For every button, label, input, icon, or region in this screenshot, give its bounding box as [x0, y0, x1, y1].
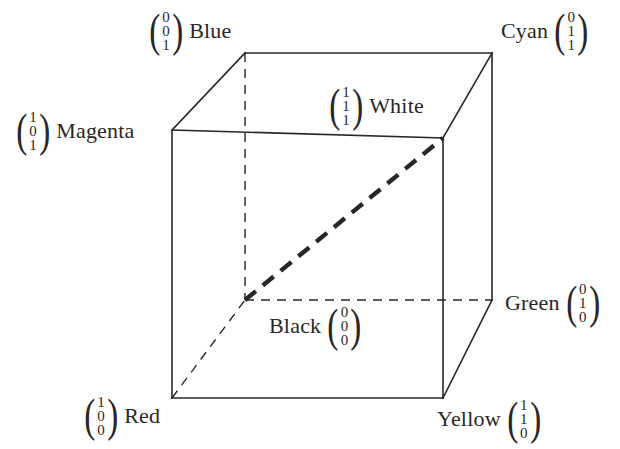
- colour-name-green: Green: [501, 292, 564, 314]
- vertex-label-blue: (001)Blue: [147, 8, 236, 54]
- vector-component: 0: [97, 409, 105, 423]
- colour-vector-white: (111): [327, 83, 365, 129]
- vector-right-paren-icon: ): [530, 400, 541, 438]
- vector-component: 1: [342, 85, 350, 99]
- colour-vector-black: (000): [325, 303, 363, 349]
- colour-vector-blue: (001): [147, 8, 185, 54]
- vertex-label-cyan: (011)Cyan: [497, 8, 590, 54]
- vector-component: 0: [162, 10, 170, 24]
- vector-left-paren-icon: (: [566, 284, 577, 322]
- vector-right-paren-icon: ): [172, 12, 183, 50]
- colour-name-magenta: Magenta: [52, 120, 138, 142]
- vector-component: 1: [520, 398, 528, 412]
- vector-component: 1: [162, 38, 170, 52]
- vector-right-paren-icon: ): [577, 12, 588, 50]
- colour-name-blue: Blue: [185, 20, 235, 42]
- vertex-label-yellow: (110)Yellow: [433, 396, 543, 442]
- vector-component: 0: [520, 426, 528, 440]
- vector-left-paren-icon: (: [16, 112, 27, 150]
- vector-component: 0: [568, 10, 576, 24]
- vector-components-white: 111: [341, 85, 351, 127]
- vector-component: 0: [579, 282, 587, 296]
- vector-component: 1: [97, 395, 105, 409]
- vertex-label-magenta: (101)Magenta: [14, 108, 139, 154]
- rgb-colour-cube-figure: (001)Blue(011)Cyan(101)Magenta(111)White…: [0, 0, 620, 449]
- edge-bottom-right: [443, 300, 492, 398]
- colour-name-cyan: Cyan: [497, 20, 552, 42]
- vector-left-paren-icon: (: [84, 397, 95, 435]
- colour-name-black: Black: [265, 315, 325, 337]
- vector-component: 1: [579, 296, 587, 310]
- vector-component: 0: [29, 124, 37, 138]
- vector-components-red: 100: [96, 395, 106, 437]
- vector-left-paren-icon: (: [329, 87, 340, 125]
- vector-component: 0: [97, 423, 105, 437]
- colour-vector-magenta: (101): [14, 108, 52, 154]
- vector-left-paren-icon: (: [507, 400, 518, 438]
- vector-component: 1: [568, 24, 576, 38]
- vertex-label-white: (111)White: [327, 83, 428, 129]
- colour-vector-green: (010): [564, 280, 602, 326]
- vector-left-paren-icon: (: [149, 12, 160, 50]
- vector-component: 1: [342, 113, 350, 127]
- vector-component: 1: [342, 99, 350, 113]
- colour-name-yellow: Yellow: [433, 408, 505, 430]
- vector-right-paren-icon: ): [350, 307, 361, 345]
- vector-component: 1: [520, 412, 528, 426]
- edge-hidden-left: [172, 300, 245, 398]
- vector-component: 1: [568, 38, 576, 52]
- vector-components-blue: 001: [161, 10, 171, 52]
- vector-component: 1: [29, 110, 37, 124]
- colour-vector-yellow: (110): [505, 396, 543, 442]
- vector-component: 0: [162, 24, 170, 38]
- grey-axis-diagonal-line: [245, 138, 443, 300]
- vector-components-green: 010: [578, 282, 588, 324]
- colour-name-red: Red: [120, 405, 164, 427]
- cube-wireframe: [0, 0, 620, 449]
- edge-top-right: [443, 53, 492, 138]
- vector-components-magenta: 101: [28, 110, 38, 152]
- vector-left-paren-icon: (: [327, 307, 338, 345]
- colour-vector-red: (100): [82, 393, 120, 439]
- colour-name-white: White: [365, 95, 428, 117]
- colour-vector-cyan: (011): [552, 8, 590, 54]
- vector-component: 1: [29, 138, 37, 152]
- vector-right-paren-icon: ): [107, 397, 118, 435]
- vector-components-black: 000: [340, 305, 350, 347]
- vector-component: 0: [579, 310, 587, 324]
- vector-right-paren-icon: ): [352, 87, 363, 125]
- vector-component: 0: [341, 319, 349, 333]
- edge-top-left: [172, 53, 245, 130]
- vertex-label-black: (000)Black: [265, 303, 363, 349]
- vector-left-paren-icon: (: [554, 12, 565, 50]
- vector-right-paren-icon: ): [39, 112, 50, 150]
- vector-component: 0: [341, 333, 349, 347]
- vertex-label-green: (010)Green: [501, 280, 602, 326]
- vector-components-cyan: 011: [567, 10, 577, 52]
- vertex-label-red: (100)Red: [82, 393, 164, 439]
- vector-right-paren-icon: ): [589, 284, 600, 322]
- vector-components-yellow: 110: [519, 398, 529, 440]
- grey-axis-diagonal: [245, 138, 443, 300]
- edge-front-top: [172, 130, 443, 138]
- vector-component: 0: [341, 305, 349, 319]
